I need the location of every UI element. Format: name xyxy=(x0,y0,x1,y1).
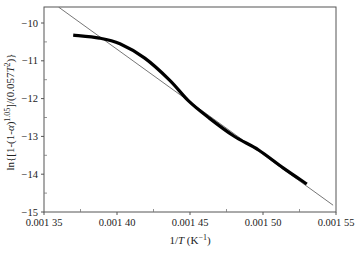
y-axis-label: ln{[1-(1-α)1.05]/(0.057T2)} xyxy=(3,53,18,170)
x-tick-label: 0.001 40 xyxy=(99,217,136,228)
y-tick-label: −13 xyxy=(22,131,38,142)
experimental-curve xyxy=(73,35,307,184)
x-tick-label: 0.001 50 xyxy=(245,217,282,228)
y-axis-ticks: −10−11−12−13−14−15 xyxy=(22,18,47,218)
y-tick-label: −12 xyxy=(22,93,38,104)
y-tick-label: −14 xyxy=(22,169,39,180)
y-tick-label: −15 xyxy=(22,207,38,218)
plot-series xyxy=(59,7,333,205)
x-axis-label: 1/T (K−1) xyxy=(169,233,211,248)
y-tick-label: −11 xyxy=(22,55,38,66)
y-tick-label: −10 xyxy=(22,18,38,29)
x-tick-label: 0.001 55 xyxy=(318,217,355,228)
x-tick-label: 0.001 35 xyxy=(26,217,63,228)
chart: −10−11−12−13−14−15 0.001 350.001 400.001… xyxy=(0,0,360,256)
x-tick-label: 0.001 45 xyxy=(172,217,209,228)
